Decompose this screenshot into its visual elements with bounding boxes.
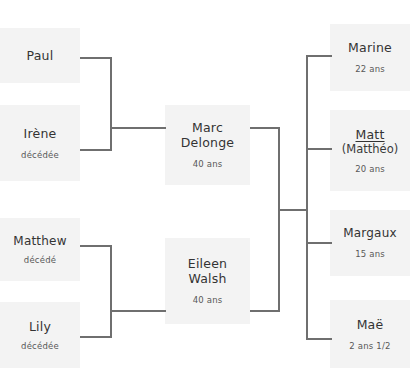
person-card-mae[interactable]: Maë 2 ans 1/2 (330, 300, 410, 368)
person-card-matthew[interactable]: Matthew décédé (0, 218, 80, 281)
person-card-marc-delonge[interactable]: Marc Delonge 40 ans (165, 105, 250, 185)
person-card-paul[interactable]: Paul (0, 28, 80, 83)
person-first-name: Eileen (188, 256, 227, 271)
person-name: Paul (27, 48, 54, 63)
family-tree-diagram: Paul Irène décédée Matthew décédé Lily d… (0, 0, 410, 385)
person-card-eileen-walsh[interactable]: Eileen Walsh 40 ans (165, 238, 250, 324)
connector-paul-irene-spine (110, 57, 112, 151)
person-name: Maë (357, 317, 384, 332)
person-last-name: Delonge (181, 135, 234, 150)
connector-paul-irene-to-marc (110, 127, 166, 129)
person-status: décédée (21, 150, 59, 161)
person-last-name: Walsh (188, 271, 226, 286)
person-card-irene[interactable]: Irène décédée (0, 105, 80, 181)
connector-matthew-lily-to-eileen (110, 310, 166, 312)
connector-paul-stub (80, 57, 112, 59)
person-card-matt[interactable]: Matt (Matthéo) 20 ans (330, 110, 410, 191)
connector-margaux-stub (306, 242, 332, 244)
connector-irene-stub (80, 149, 112, 151)
connector-children-spine (306, 55, 308, 340)
connector-marc-stub (250, 127, 280, 129)
person-age: 20 ans (355, 164, 385, 175)
person-name: Lily (29, 319, 51, 334)
person-card-lily[interactable]: Lily décédée (0, 302, 80, 368)
connector-matthew-lily-spine (110, 245, 112, 338)
person-name: Irène (24, 126, 57, 141)
person-card-marine[interactable]: Marine 22 ans (330, 24, 410, 91)
person-name: Matt (355, 127, 384, 142)
person-first-name: Marc (192, 120, 223, 135)
connector-eileen-stub (250, 310, 280, 312)
connector-mae-stub (306, 338, 332, 340)
connector-matt-stub (306, 148, 332, 150)
person-alias: (Matthéo) (342, 142, 398, 157)
connector-marc-eileen-to-children (278, 209, 308, 211)
person-age: 22 ans (355, 64, 385, 75)
person-age: 40 ans (193, 159, 223, 170)
connector-matthew-stub (80, 245, 112, 247)
person-name: Margaux (343, 226, 397, 240)
connector-lily-stub (80, 336, 112, 338)
person-card-margaux[interactable]: Margaux 15 ans (330, 210, 410, 276)
person-status: décédée (21, 341, 59, 352)
person-name: Marine (348, 40, 392, 55)
person-status: décédé (24, 255, 56, 266)
person-name: Matthew (13, 234, 66, 248)
connector-marine-stub (306, 55, 332, 57)
person-age: 2 ans 1/2 (349, 341, 390, 352)
person-age: 15 ans (355, 249, 385, 260)
connector-marc-eileen-spine (278, 127, 280, 312)
person-age: 40 ans (193, 295, 223, 306)
